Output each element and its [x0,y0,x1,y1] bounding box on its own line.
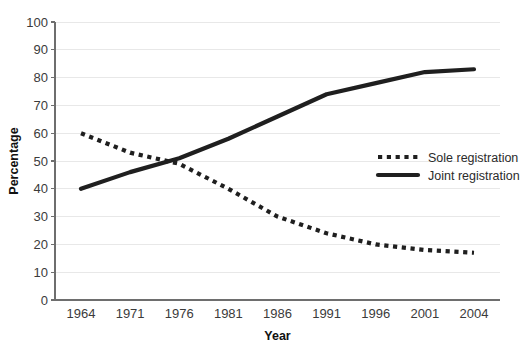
x-tick-label: 2004 [460,306,489,321]
y-tick-label: 80 [34,70,48,85]
x-tick-label: 1986 [263,306,292,321]
series-line-sole-registration [81,133,474,253]
chart-container: 0102030405060708090100 19641971197619811… [0,0,528,357]
x-tick-label: 1981 [214,306,243,321]
line-chart: 0102030405060708090100 19641971197619811… [0,0,528,357]
y-tick-label: 70 [34,98,48,113]
legend-label: Sole registration [428,151,518,165]
y-tick-label: 40 [34,181,48,196]
x-tick-label: 1964 [67,306,96,321]
y-tick-label: 100 [26,15,48,30]
y-tick-label: 10 [34,265,48,280]
legend: Sole registrationJoint registration [378,151,520,183]
y-tick-label: 30 [34,209,48,224]
x-tick-label: 1996 [361,306,390,321]
gridlines-group [55,22,500,272]
y-tick-label: 50 [34,154,48,169]
x-tick-labels-group: 196419711976198119861991199620012004 [67,306,489,321]
x-tick-label: 2001 [410,306,439,321]
x-tick-label: 1991 [312,306,341,321]
y-tick-label: 0 [41,293,48,308]
x-tick-label: 1971 [116,306,145,321]
y-tick-label: 60 [34,126,48,141]
y-tick-label: 20 [34,237,48,252]
x-axis-title: Year [264,329,291,343]
x-tick-label: 1976 [165,306,194,321]
legend-label: Joint registration [428,169,520,183]
y-axis-title: Percentage [7,127,21,194]
y-tick-label: 90 [34,42,48,57]
y-tick-labels-group: 0102030405060708090100 [26,15,55,308]
series-line-joint-registration [81,69,474,189]
